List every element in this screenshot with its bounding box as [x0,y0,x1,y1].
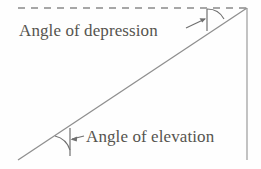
depression-leader-arrow-icon [200,18,207,22]
geometry-figure: Angle of depression Angle of elevation [0,0,261,169]
depression-angle-arc [207,9,224,19]
angle-of-elevation-label: Angle of elevation [86,128,214,145]
angle-of-depression-label: Angle of depression [19,22,158,39]
elevation-angle-arc [55,136,70,150]
elevation-leader-arrow-icon [71,137,78,142]
